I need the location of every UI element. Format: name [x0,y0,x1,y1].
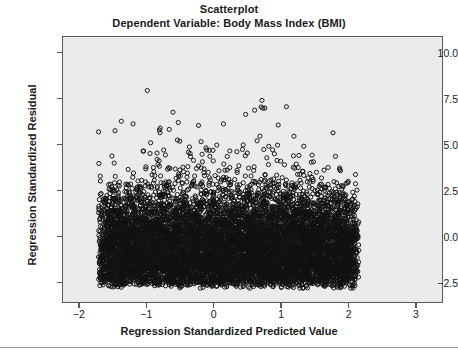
x-tick-mark [146,303,148,308]
y-tick-mark [57,282,62,284]
y-tick-mark [57,144,62,146]
footer-divider [0,347,458,348]
x-axis-title: Regression Standardized Predicted Value [0,325,458,337]
x-tick-mark [415,303,417,308]
x-tick-mark [280,303,282,308]
y-tick-label: 10.0 [412,47,458,59]
y-tick-mark [57,190,62,192]
title-block: Scatterplot Dependent Variable: Body Mas… [0,2,458,30]
x-tick-mark [78,303,80,308]
x-tick-label: 3 [396,308,436,320]
y-tick-label: −2.5 [412,277,458,289]
x-tick-label: 1 [261,308,301,320]
x-tick-mark [213,303,215,308]
y-tick-label: 2.5 [412,185,458,197]
x-tick-label: −2 [59,308,99,320]
chart-subtitle: Dependent Variable: Body Mass Index (BMI… [0,16,458,30]
x-tick-label: −1 [126,308,166,320]
plot-panel [62,36,443,303]
y-tick-label: 5.0 [412,139,458,151]
y-tick-label: 7.5 [412,93,458,105]
scatterplot-figure: Scatterplot Dependent Variable: Body Mas… [0,0,458,357]
y-tick-mark [57,98,62,100]
x-tick-label: 0 [194,308,234,320]
y-axis: Regression Standardized Residual [0,0,62,357]
scatter-points [63,37,442,302]
y-tick-mark [57,52,62,54]
page-title: Scatterplot [0,2,458,16]
y-axis-title: Regression Standardized Residual [26,50,38,300]
x-tick-mark [348,303,350,308]
y-tick-mark [57,236,62,238]
x-tick-label: 2 [329,308,369,320]
y-tick-label: 0.0 [412,231,458,243]
